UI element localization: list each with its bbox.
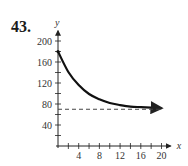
start-point bbox=[56, 50, 59, 53]
curve-line bbox=[58, 52, 162, 109]
x-tick-label: 20 bbox=[157, 150, 167, 161]
ticks: 481216204080120160200 bbox=[37, 36, 167, 162]
y-tick-label: 160 bbox=[37, 57, 52, 68]
x-tick-label: 16 bbox=[136, 150, 146, 161]
y-tick-label: 200 bbox=[37, 36, 52, 47]
y-tick-label: 80 bbox=[42, 99, 52, 110]
x-tick-label: 8 bbox=[97, 150, 102, 161]
x-tick-label: 12 bbox=[115, 150, 125, 161]
x-tick-label: 4 bbox=[76, 150, 81, 161]
y-axis-label: y bbox=[54, 17, 60, 28]
series bbox=[56, 50, 161, 109]
y-tick-label: 40 bbox=[42, 120, 52, 131]
axes: xy bbox=[54, 17, 182, 151]
x-axis-label: x bbox=[176, 140, 182, 151]
chart: xy 481216204080120160200 bbox=[0, 0, 188, 166]
y-tick-label: 120 bbox=[37, 78, 52, 89]
